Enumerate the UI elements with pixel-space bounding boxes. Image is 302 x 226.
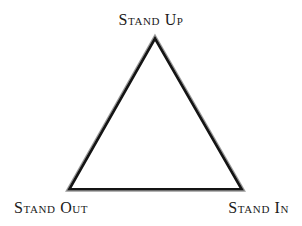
triangle-shape	[0, 0, 302, 226]
vertex-label-stand-up: Stand Up	[0, 12, 302, 28]
triangle-inner-outline	[69, 39, 241, 190]
vertex-label-stand-up-text: Stand Up	[118, 11, 183, 28]
vertex-label-stand-out: Stand Out	[14, 200, 88, 216]
vertex-label-stand-in: Stand In	[228, 200, 289, 216]
triangle-outer-outline	[66, 35, 245, 191]
diagram-canvas: Stand Up Stand Out Stand In	[0, 0, 302, 226]
vertex-label-stand-in-text: Stand In	[228, 199, 289, 216]
vertex-label-stand-out-text: Stand Out	[14, 199, 88, 216]
